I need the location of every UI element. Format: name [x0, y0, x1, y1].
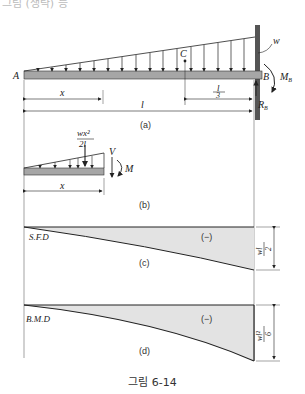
reaction-rb-label: RB	[257, 99, 268, 111]
dim-x-label: x	[59, 87, 65, 98]
point-b-label: B	[263, 71, 269, 82]
sfd-sign: (−)	[201, 232, 212, 242]
resultant-num: wx²	[77, 128, 90, 138]
sfd-max-num: wl	[255, 247, 264, 255]
sfd-title: S.F.D	[29, 232, 49, 242]
load-w-label: w	[273, 35, 280, 46]
figure-d-bmd: B.M.D (−) (d) wl² 6	[24, 305, 280, 361]
bmd-max-num: wl²	[255, 330, 264, 341]
bmd-sign: (−)	[201, 314, 212, 324]
moment-m-label: M	[124, 163, 134, 174]
dim-l-label: l	[141, 99, 144, 110]
figure-c-label: (c)	[139, 258, 150, 268]
bmd-title: B.M.D	[26, 314, 50, 324]
shear-v-label: V	[109, 146, 117, 157]
point-a-label: A	[12, 70, 20, 81]
distributed-load-arrows	[38, 39, 244, 71]
figure-caption: 그림 6-14	[0, 373, 305, 389]
beam	[24, 71, 262, 79]
dim-x-label-b: x	[59, 180, 65, 191]
figure-a-label: (a)	[140, 120, 151, 130]
beam-diagram: C A B w MB RB x l 3 l (a)	[0, 0, 305, 394]
figure-c-sfd: S.F.D (−) (c) wl 2	[24, 227, 280, 270]
figure-b: wx² 2l V M x (b)	[24, 128, 150, 210]
resultant-den: 2l	[79, 139, 87, 149]
bmd-max-den: 6	[264, 332, 273, 336]
moment-mb-label: MB	[279, 71, 292, 83]
figure-d-label: (d)	[139, 346, 150, 356]
figure-b-label: (b)	[139, 200, 150, 210]
moment-arrow-b	[117, 160, 122, 176]
dim-l3-den: 3	[215, 91, 220, 100]
point-c-label: C	[180, 48, 187, 59]
beam-segment	[24, 168, 104, 175]
sfd-max-den: 2	[264, 247, 273, 251]
